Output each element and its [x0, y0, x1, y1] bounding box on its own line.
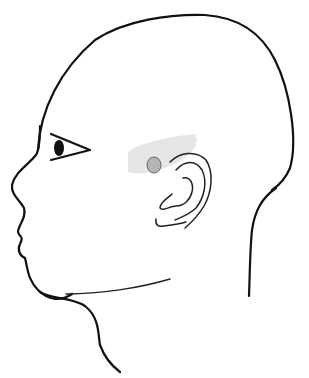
back-of-neck: [249, 188, 276, 296]
eye-icon: [51, 134, 90, 160]
marker-dot: [147, 157, 161, 173]
head-illustration: [0, 0, 309, 378]
head-profile-diagram: [0, 0, 309, 378]
front-of-neck: [40, 292, 120, 372]
jaw-line: [66, 279, 170, 294]
